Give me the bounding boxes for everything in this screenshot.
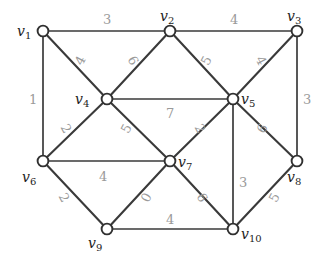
node-label-v4: v4 (75, 92, 89, 109)
node-label-v6: v6 (22, 170, 36, 187)
graph-edge-v1-v4 (43, 31, 107, 99)
graph-edge-v3-v5 (233, 31, 297, 99)
edge-weight-v5-v10: 3 (239, 176, 247, 189)
node-label-v3: v3 (287, 9, 301, 26)
graph-edge-v2-v4 (107, 31, 170, 99)
node-label-v9: v9 (88, 236, 102, 253)
edge-weight-v1-v2: 3 (103, 13, 111, 26)
node-label-v8: v8 (287, 170, 301, 187)
node-label-v1: v1 (17, 24, 31, 41)
graph-node-v8 (292, 156, 303, 167)
node-label-v2: v2 (160, 9, 174, 26)
graph-node-v7 (165, 156, 176, 167)
edge-weight-v1-v6: 1 (29, 93, 37, 106)
graph-edge-v4-v7 (107, 99, 170, 161)
graph-node-v1 (38, 26, 49, 37)
edge-weight-v4-v5: 7 (166, 107, 174, 120)
graph-node-v5 (228, 94, 239, 105)
graph-node-v2 (165, 26, 176, 37)
edge-weight-v3-v8: 3 (303, 93, 311, 106)
graph-diagram: 34416543725263420654 v1v2v3v4v5v6v7v8v9v… (0, 0, 330, 263)
edge-weight-v2-v3: 4 (230, 13, 238, 26)
graph-edge-v6-v9 (43, 161, 107, 229)
graph-node-v9 (102, 224, 113, 235)
graph-node-v3 (292, 26, 303, 37)
node-label-v10: v10 (241, 227, 262, 244)
graph-edge-v2-v5 (170, 31, 233, 99)
graph-node-v10 (228, 224, 239, 235)
node-label-v7: v7 (178, 155, 192, 172)
graph-node-v6 (38, 156, 49, 167)
edge-weight-v9-v10: 4 (166, 213, 174, 226)
edge-weight-v6-v7: 4 (99, 170, 107, 183)
graph-node-v4 (102, 94, 113, 105)
graph-canvas (0, 0, 330, 263)
node-label-v5: v5 (241, 92, 255, 109)
